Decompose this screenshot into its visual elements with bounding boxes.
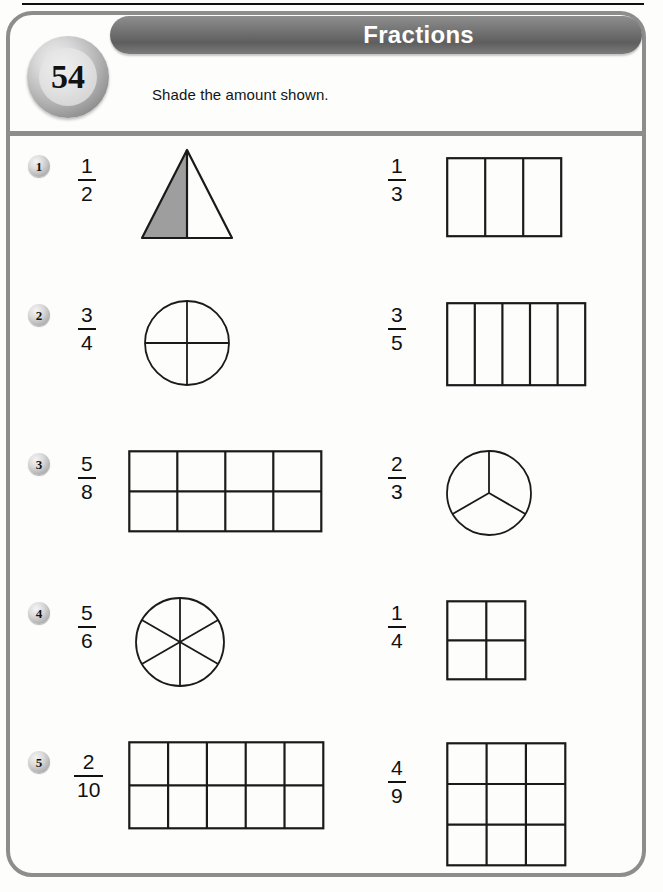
problem-row-1: 1 1 2 1	[10, 139, 642, 288]
fraction-bar	[78, 179, 96, 181]
problem-number-label: 2	[36, 309, 43, 322]
fraction-denominator: 3	[388, 481, 406, 503]
problem-5-right[interactable]: 4 9	[340, 735, 642, 890]
figure-square-ninths[interactable]	[446, 742, 568, 868]
problem-row-4: 4 5 6 1	[10, 586, 642, 735]
fraction-bar	[78, 328, 96, 330]
problem-3-left[interactable]: 3 5 8	[10, 437, 340, 586]
problem-number-badge-4: 4	[28, 602, 50, 624]
fraction-denominator: 9	[388, 785, 406, 807]
page-number-badge-inner: 54	[39, 48, 97, 106]
problem-row-5: 5 2 10	[10, 735, 642, 890]
figure-rectangle-tenths[interactable]	[128, 741, 326, 831]
problem-number-badge-5: 5	[28, 751, 50, 773]
figure-circle-thirds[interactable]	[444, 447, 536, 539]
fraction-denominator: 4	[78, 332, 96, 354]
fraction-1-right: 1 3	[388, 155, 406, 205]
instruction-text: Shade the amount shown.	[152, 86, 329, 103]
figure-rectangle-eighths[interactable]	[128, 450, 324, 534]
figure-circle-quarters[interactable]	[142, 298, 234, 390]
problem-2-left[interactable]: 2 3 4	[10, 288, 340, 437]
problem-4-left[interactable]: 4 5 6	[10, 586, 340, 735]
problem-number-label: 4	[36, 607, 43, 620]
problem-number-badge-2: 2	[28, 304, 50, 326]
fraction-4-right: 1 4	[388, 602, 406, 652]
problem-number-badge-1: 1	[28, 155, 50, 177]
figure-rectangle-thirds[interactable]	[446, 157, 564, 239]
fraction-denominator: 3	[388, 183, 406, 205]
fraction-numerator: 1	[388, 602, 406, 624]
fraction-5-left: 2 10	[74, 751, 103, 801]
fraction-bar	[388, 179, 406, 181]
problem-2-right[interactable]: 3 5	[340, 288, 642, 437]
fraction-numerator: 1	[388, 155, 406, 177]
fraction-numerator: 3	[78, 304, 96, 326]
fraction-numerator: 5	[78, 602, 96, 624]
page-number-label: 54	[51, 60, 85, 94]
problem-4-right[interactable]: 1 4	[340, 586, 642, 735]
worksheet-page: Fractions 54 Shade the amount shown. 1 1…	[0, 0, 663, 892]
fraction-numerator: 5	[78, 453, 96, 475]
figure-rectangle-fifths[interactable]	[446, 302, 588, 388]
header-divider	[10, 131, 642, 136]
fraction-bar	[388, 477, 406, 479]
figure-square-quarters[interactable]	[446, 600, 528, 682]
fraction-numerator: 2	[74, 751, 103, 773]
fraction-numerator: 2	[388, 453, 406, 475]
fraction-denominator: 10	[74, 779, 103, 801]
fraction-denominator: 8	[78, 481, 96, 503]
fraction-bar	[388, 328, 406, 330]
fraction-3-left: 5 8	[78, 453, 96, 503]
fraction-5-right: 4 9	[388, 757, 406, 807]
fraction-denominator: 4	[388, 630, 406, 652]
fraction-bar	[78, 477, 96, 479]
fraction-bar	[78, 626, 96, 628]
problem-1-right[interactable]: 1 3	[340, 139, 642, 288]
fraction-numerator: 4	[388, 757, 406, 779]
fraction-numerator: 3	[388, 304, 406, 326]
fraction-bar	[388, 626, 406, 628]
problem-5-left[interactable]: 5 2 10	[10, 735, 340, 890]
fraction-numerator: 1	[78, 155, 96, 177]
problem-number-badge-3: 3	[28, 453, 50, 475]
fraction-4-left: 5 6	[78, 602, 96, 652]
fraction-2-left: 3 4	[78, 304, 96, 354]
problem-number-label: 5	[36, 756, 43, 769]
figure-circle-sixths[interactable]	[132, 594, 230, 692]
fraction-denominator: 2	[78, 183, 96, 205]
fraction-3-right: 2 3	[388, 453, 406, 503]
page-title: Fractions	[363, 21, 474, 49]
problems-area: 1 1 2 1	[10, 139, 642, 890]
problem-row-3: 3 5 8	[10, 437, 642, 586]
fraction-bar	[74, 775, 103, 777]
fraction-denominator: 5	[388, 332, 406, 354]
figure-triangle-halves[interactable]	[132, 146, 242, 246]
problem-number-label: 3	[36, 458, 43, 471]
problem-number-label: 1	[36, 160, 43, 173]
top-rule	[22, 3, 644, 5]
fraction-denominator: 6	[78, 630, 96, 652]
fraction-1-left: 1 2	[78, 155, 96, 205]
fraction-2-right: 3 5	[388, 304, 406, 354]
title-bar: Fractions	[110, 16, 642, 54]
problem-1-left[interactable]: 1 1 2	[10, 139, 340, 288]
problem-row-2: 2 3 4 3	[10, 288, 642, 437]
problem-3-right[interactable]: 2 3	[340, 437, 642, 586]
page-number-badge: 54	[27, 36, 109, 118]
fraction-bar	[388, 781, 406, 783]
